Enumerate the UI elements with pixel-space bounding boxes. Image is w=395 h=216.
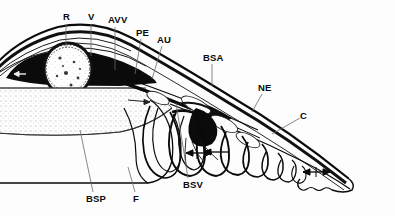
anatomy-label-bsa: BSA — [203, 53, 224, 63]
anatomy-label-bsp: BSP — [86, 194, 106, 204]
anatomical-figure: RVAVVPEAUBSANECBSVBSPF — [0, 0, 395, 216]
leader-line-f — [128, 167, 135, 192]
anatomy-label-pe: PE — [136, 28, 149, 38]
leader-line-pe — [135, 39, 141, 74]
anatomy-label-bsv: BSV — [183, 180, 203, 190]
leader-line-ne — [252, 94, 262, 112]
anatomy-label-v: V — [88, 12, 95, 22]
anatomy-label-c: C — [300, 111, 307, 121]
anatomy-label-r: R — [63, 12, 70, 22]
anatomy-label-avv: AVV — [108, 15, 127, 25]
anatomy-label-f: F — [133, 194, 139, 204]
connective-tissue-mass — [0, 88, 172, 135]
anatomy-label-ne: NE — [258, 83, 272, 93]
anatomy-label-au: AU — [157, 35, 171, 45]
